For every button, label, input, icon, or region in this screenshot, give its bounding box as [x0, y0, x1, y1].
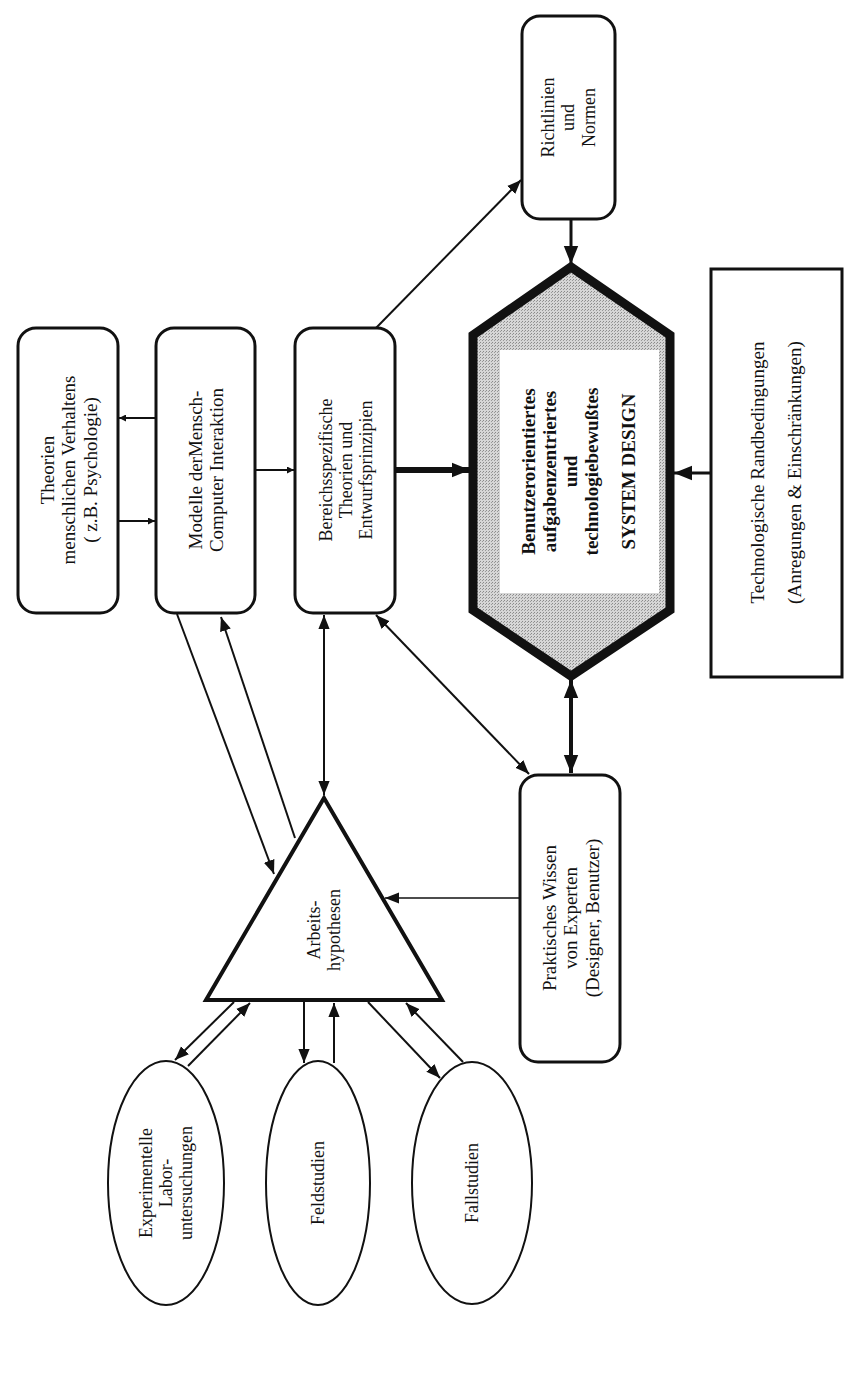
richtlinien-line-3: Normen	[579, 78, 599, 158]
bereich-line-1: Bereichsspezifische	[315, 399, 335, 542]
edge-arbeitshypothesen-fallstudien	[368, 1002, 440, 1078]
modelle-line-1: Modelle derMensch-	[184, 388, 205, 552]
technologische-line-1: Technologische Randbedingungen	[740, 341, 776, 604]
edge-arbeitshypothesen-experimentelle	[175, 1002, 234, 1060]
theorien-label: Theorien menschlichen Verhaltens ( z.B. …	[19, 328, 119, 613]
bereich-line-3: Entwurfsprinzipien	[356, 399, 376, 542]
feldstudien-line-1: Feldstudien	[308, 1141, 328, 1225]
praktisches-line-3: (Designer, Benutzer)	[581, 839, 602, 998]
fallstudien-label: Fallstudien	[447, 1098, 497, 1268]
edge-bereich-richtlinien	[376, 180, 521, 328]
edge-bereich-praktisches	[376, 615, 529, 774]
edge-experimentelle-arbeitshypothesen	[188, 1003, 250, 1066]
edge-fallstudien-arbeitshypothesen	[406, 1003, 463, 1062]
system-design-line-1: Benutzerorientiertes	[519, 388, 540, 556]
system-design-title: SYSTEM DESIGN	[619, 388, 640, 556]
bereich-label: Bereichsspezifische Theorien und Entwurf…	[296, 328, 396, 613]
fallstudien-line-1: Fallstudien	[462, 1143, 482, 1223]
technologische-line-2: (Anregungen & Einschränkungen)	[776, 341, 812, 604]
bereich-line-2: Theorien und	[335, 399, 355, 542]
system-design-line-3: und	[561, 388, 582, 556]
richtlinien-label: Richtlinien und Normen	[522, 16, 615, 219]
modelle-line-2: Computer Interaktion	[206, 388, 227, 552]
theorien-line-3: ( z.B. Psychologie)	[79, 375, 100, 564]
theorien-line-2: menschlichen Verhaltens	[58, 375, 79, 564]
experimentelle-line-3: untersuchungen	[176, 1126, 196, 1240]
richtlinien-line-2: und	[558, 78, 578, 158]
system-design-line-2: aufgabenzentriertes	[540, 388, 561, 556]
arbeitshypothesen-line-1: Arbeits-	[304, 889, 324, 971]
theorien-line-1: Theorien	[37, 375, 58, 564]
technologische-label: Technologische Randbedingungen (Anregung…	[711, 269, 842, 677]
experimentelle-line-2: Labor-	[156, 1126, 176, 1240]
experimentelle-line-1: Experimentelle	[136, 1126, 156, 1240]
edge-arbeitshypothesen-modelle	[221, 617, 295, 838]
modelle-label: Modelle derMensch- Computer Interaktion	[156, 328, 256, 613]
praktisches-label: Praktisches Wissen von Experten (Designe…	[521, 775, 621, 1062]
system-design-line-4: technologiebewußtes	[582, 388, 603, 556]
arbeitshypothesen-line-2: hypothesen	[324, 889, 344, 971]
praktisches-line-2: von Experten	[560, 839, 581, 998]
experimentelle-label: Experimentelle Labor- untersuchungen	[116, 1083, 216, 1283]
arbeitshypothesen-label: Arbeits- hypothesen	[299, 870, 349, 990]
system-design-label: Benutzerorientiertes aufgabenzentriertes…	[500, 350, 659, 593]
feldstudien-label: Feldstudien	[293, 1098, 343, 1268]
praktisches-line-1: Praktisches Wissen	[539, 839, 560, 998]
edge-modelle-arbeitshypothesen	[177, 614, 274, 874]
richtlinien-line-1: Richtlinien	[538, 78, 558, 158]
